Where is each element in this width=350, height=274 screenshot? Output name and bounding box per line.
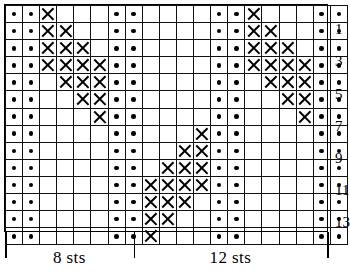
purl-dot-icon	[108, 74, 125, 91]
knit-cross-icon	[279, 74, 296, 91]
purl-dot-icon	[23, 108, 40, 125]
purl-dot-icon	[228, 142, 245, 159]
purl-dot-icon	[6, 40, 23, 57]
empty-cell	[57, 142, 74, 159]
empty-cell	[194, 211, 211, 228]
purl-dot-icon	[228, 125, 245, 142]
purl-dot-icon	[313, 6, 330, 23]
stitch-grid	[5, 5, 348, 245]
empty-cell	[91, 23, 108, 40]
purl-dot-icon	[23, 23, 40, 40]
empty-cell	[279, 6, 296, 23]
knit-cross-icon	[74, 74, 91, 91]
knit-cross-icon	[40, 23, 57, 40]
knit-cross-icon	[40, 57, 57, 74]
knit-cross-icon	[296, 57, 313, 74]
empty-cell	[57, 194, 74, 211]
row-number-column: 131197531	[331, 5, 350, 231]
purl-dot-icon	[6, 142, 23, 159]
purl-dot-icon	[23, 211, 40, 228]
purl-dot-icon	[211, 23, 228, 40]
empty-cell	[279, 23, 296, 40]
empty-cell	[91, 40, 108, 57]
purl-dot-icon	[108, 176, 125, 193]
knit-cross-icon	[57, 23, 74, 40]
purl-dot-icon	[108, 108, 125, 125]
purl-dot-icon	[125, 23, 142, 40]
knit-cross-icon	[194, 176, 211, 193]
purl-dot-icon	[313, 194, 330, 211]
empty-cell	[245, 159, 262, 176]
knit-cross-icon	[142, 176, 159, 193]
empty-cell	[142, 74, 159, 91]
repeat-tick	[327, 232, 329, 258]
empty-cell	[159, 23, 176, 40]
empty-cell	[262, 211, 279, 228]
empty-cell	[279, 159, 296, 176]
chart-row	[6, 40, 348, 57]
purl-dot-icon	[125, 211, 142, 228]
empty-cell	[40, 91, 57, 108]
knit-cross-icon	[159, 194, 176, 211]
stitch-grid-wrapper	[5, 5, 348, 245]
purl-dot-icon	[23, 57, 40, 74]
knit-cross-icon	[57, 40, 74, 57]
chart-row	[6, 57, 348, 74]
empty-cell	[142, 125, 159, 142]
empty-cell	[159, 57, 176, 74]
empty-cell	[74, 159, 91, 176]
knit-cross-icon	[159, 211, 176, 228]
chart-row	[6, 176, 348, 193]
empty-cell	[91, 211, 108, 228]
empty-cell	[142, 6, 159, 23]
purl-dot-icon	[23, 194, 40, 211]
empty-cell	[142, 159, 159, 176]
purl-dot-icon	[211, 142, 228, 159]
purl-dot-icon	[108, 194, 125, 211]
purl-dot-icon	[108, 91, 125, 108]
purl-dot-icon	[211, 125, 228, 142]
empty-cell	[262, 108, 279, 125]
empty-cell	[296, 194, 313, 211]
purl-dot-icon	[6, 6, 23, 23]
purl-dot-icon	[125, 194, 142, 211]
purl-dot-icon	[125, 74, 142, 91]
empty-cell	[176, 211, 193, 228]
knit-cross-icon	[57, 74, 74, 91]
knit-cross-icon	[245, 57, 262, 74]
empty-cell	[262, 125, 279, 142]
empty-cell	[245, 176, 262, 193]
empty-cell	[91, 6, 108, 23]
knit-cross-icon	[142, 194, 159, 211]
knit-cross-icon	[74, 91, 91, 108]
purl-dot-icon	[6, 211, 23, 228]
chart-row	[6, 159, 348, 176]
chart-row	[6, 125, 348, 142]
empty-cell	[57, 6, 74, 23]
empty-cell	[40, 159, 57, 176]
purl-dot-icon	[6, 125, 23, 142]
empty-cell	[40, 142, 57, 159]
empty-cell	[279, 142, 296, 159]
empty-cell	[40, 125, 57, 142]
empty-cell	[74, 194, 91, 211]
purl-dot-icon	[108, 6, 125, 23]
empty-cell	[142, 91, 159, 108]
purl-dot-icon	[108, 211, 125, 228]
chart-row	[6, 142, 348, 159]
purl-dot-icon	[228, 159, 245, 176]
purl-dot-icon	[23, 176, 40, 193]
purl-dot-icon	[108, 40, 125, 57]
knit-cross-icon	[245, 6, 262, 23]
chart-row	[6, 194, 348, 211]
empty-cell	[194, 74, 211, 91]
knit-cross-icon	[194, 125, 211, 142]
empty-cell	[279, 108, 296, 125]
empty-cell	[245, 194, 262, 211]
purl-dot-icon	[313, 74, 330, 91]
knit-cross-icon	[74, 40, 91, 57]
chart-row	[6, 108, 348, 125]
purl-dot-icon	[125, 91, 142, 108]
empty-cell	[176, 125, 193, 142]
empty-cell	[176, 6, 193, 23]
